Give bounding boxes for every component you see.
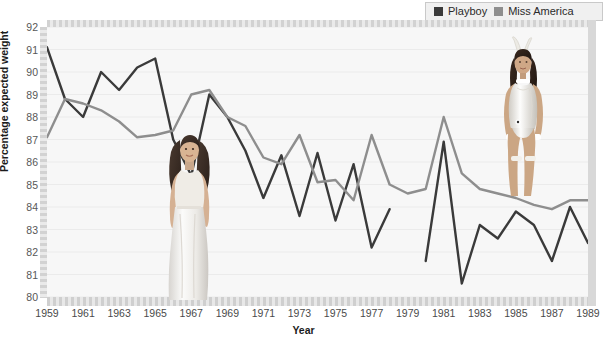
x-tick-label: 1989	[568, 308, 607, 319]
x-tick-label: 1961	[63, 308, 103, 319]
y-tick-label: 91	[16, 45, 38, 55]
playboy-swatch	[434, 7, 443, 16]
legend-label-miss-america: Miss America	[508, 6, 573, 17]
x-tick-label: 1959	[27, 308, 67, 319]
legend-label-playboy: Playboy	[448, 6, 487, 17]
y-axis-ticks: 80818283848586878889909192	[12, 0, 38, 344]
right-axis-band	[588, 20, 596, 306]
y-tick-label: 83	[16, 225, 38, 235]
x-tick-label: 1967	[171, 308, 211, 319]
miss-america-photo	[150, 128, 228, 300]
x-tick-label: 1975	[316, 308, 356, 319]
x-axis-title: Year	[0, 324, 607, 336]
legend-item-miss-america: Miss America	[494, 6, 573, 17]
y-tick-label: 85	[16, 180, 38, 190]
top-axis-band	[47, 20, 588, 27]
bottom-axis-band	[47, 297, 588, 306]
miss-america-swatch	[494, 7, 503, 16]
y-tick-label: 87	[16, 135, 38, 145]
x-tick-label: 1987	[532, 308, 572, 319]
y-tick-label: 86	[16, 157, 38, 167]
y-tick-label: 81	[16, 270, 38, 280]
chart-legend: Playboy Miss America	[425, 2, 603, 21]
chart-root: Playboy Miss America	[0, 0, 607, 344]
y-axis-title: Percentage expected weight	[0, 31, 10, 172]
playboy-photo	[487, 36, 559, 200]
x-tick-label: 1963	[99, 308, 139, 319]
x-tick-label: 1977	[352, 308, 392, 319]
x-tick-label: 1981	[424, 308, 464, 319]
x-tick-label: 1973	[279, 308, 319, 319]
left-axis-band	[40, 27, 47, 298]
y-tick-label: 89	[16, 90, 38, 100]
x-tick-label: 1985	[496, 308, 536, 319]
x-tick-label: 1971	[243, 308, 283, 319]
x-tick-label: 1969	[207, 308, 247, 319]
y-tick-label: 90	[16, 67, 38, 77]
y-tick-label: 92	[16, 22, 38, 32]
x-tick-label: 1965	[135, 308, 175, 319]
legend-item-playboy: Playboy	[434, 6, 487, 17]
y-tick-label: 88	[16, 112, 38, 122]
y-tick-label: 80	[16, 292, 38, 302]
y-tick-label: 82	[16, 247, 38, 257]
x-tick-label: 1983	[460, 308, 500, 319]
x-tick-label: 1979	[388, 308, 428, 319]
y-tick-label: 84	[16, 202, 38, 212]
